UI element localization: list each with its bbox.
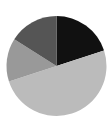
pie-chart	[0, 0, 112, 123]
pie-slices	[7, 16, 107, 116]
